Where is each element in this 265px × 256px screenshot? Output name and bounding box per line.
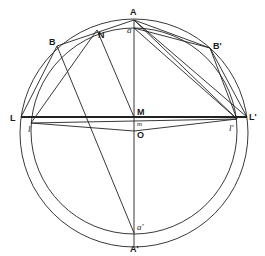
label-N: N — [98, 30, 105, 40]
label-L-prime: L' — [249, 112, 257, 122]
chord-L-B — [21, 46, 57, 117]
label-A-prime: A' — [130, 244, 139, 254]
label-B: B — [49, 37, 56, 47]
label-m: m — [137, 120, 142, 128]
chord-A-Bprime — [134, 20, 210, 48]
chord-Bprime-Lprime — [210, 48, 247, 117]
label-l: l — [28, 124, 31, 134]
chord-A-Lprime — [134, 20, 247, 117]
chord-Bprime-lprime — [210, 48, 237, 119]
label-O: O — [137, 130, 144, 140]
chord-B-A — [57, 20, 134, 46]
label-A: A — [130, 7, 137, 17]
line-N-M — [97, 30, 134, 117]
line-l-O — [31, 123, 134, 131]
label-a-prime: a' — [137, 222, 145, 232]
label-B-prime: B' — [213, 41, 222, 51]
label-l-prime: l' — [229, 123, 235, 133]
label-L: L — [10, 113, 16, 123]
line-B-aprime — [57, 46, 134, 233]
geometry-diagram: A a B N B' L l M m O L' l' a' A' — [0, 0, 265, 256]
label-M: M — [137, 107, 145, 117]
label-a: a — [127, 25, 132, 35]
